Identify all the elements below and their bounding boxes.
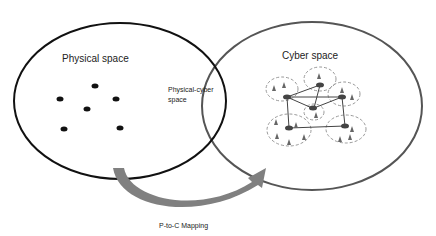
- physical-dot: [117, 126, 124, 131]
- mapping-label: P-to-C Mapping: [159, 222, 208, 230]
- device-icon: [282, 82, 286, 88]
- hub-node: [316, 83, 324, 88]
- physical-dot: [61, 127, 68, 132]
- mapping-arrow: [113, 168, 266, 207]
- diagram-canvas: Physical space Cyber space Physical-cybe…: [0, 0, 436, 236]
- device-icon: [350, 94, 354, 100]
- hub-node: [309, 106, 317, 111]
- device-icon: [302, 134, 306, 140]
- cyber-space-label: Cyber space: [282, 50, 339, 61]
- hub-node: [283, 95, 291, 100]
- physical-dot: [57, 97, 64, 102]
- device-icon: [294, 122, 298, 128]
- hub-node: [341, 124, 349, 129]
- physical-dot: [92, 84, 99, 89]
- cyber-network: [266, 67, 366, 146]
- device-icon: [340, 87, 344, 93]
- physical-dot: [113, 97, 120, 102]
- hub-node: [338, 95, 346, 100]
- physical-space-label: Physical space: [62, 53, 129, 64]
- physical-dots: [57, 84, 124, 132]
- device-icon: [274, 119, 278, 125]
- physical-dot: [84, 107, 91, 112]
- device-icon: [317, 73, 321, 79]
- hub-node: [285, 126, 293, 131]
- physical-space-ellipse: [14, 23, 226, 179]
- device-icon: [338, 136, 342, 142]
- device-icon: [348, 134, 352, 140]
- device-icon: [314, 112, 318, 118]
- cluster: [326, 115, 366, 143]
- device-icon: [272, 85, 276, 91]
- device-icon: [350, 126, 354, 132]
- overlap-label-line1: Physical-cyber: [168, 86, 214, 94]
- device-icon: [275, 133, 279, 139]
- device-icon: [287, 139, 291, 145]
- overlap-label-line2: space: [168, 96, 187, 104]
